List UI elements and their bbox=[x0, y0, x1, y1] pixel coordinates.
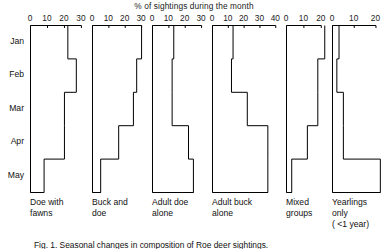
step-plot-svg bbox=[92, 25, 148, 194]
x-axis-ticklabels-yearlings-only: 01020 bbox=[332, 13, 382, 25]
step-outline bbox=[93, 26, 142, 193]
tick-label: 0 bbox=[284, 13, 289, 23]
tick-label: 40 bbox=[271, 13, 280, 23]
x-axis-ticklabels-buck-and-doe: 0102030 bbox=[92, 13, 146, 25]
step-plot-svg bbox=[286, 25, 328, 194]
step-outline bbox=[153, 26, 194, 193]
tick-label: 0 bbox=[210, 13, 215, 23]
tick-label: 20 bbox=[59, 13, 68, 23]
tick-label: 30 bbox=[76, 13, 85, 23]
x-axis-ticklabels-adult-doe-alone: 0102030 bbox=[152, 13, 206, 25]
step-outline bbox=[287, 26, 325, 193]
plot-adult-buck-alone bbox=[212, 25, 282, 194]
tick-label: 20 bbox=[371, 13, 380, 23]
tick-label: 10 bbox=[42, 13, 51, 23]
panel-label-yearlings-only: Yearlings only ( <1 year) bbox=[332, 197, 388, 231]
step-outline bbox=[31, 26, 77, 193]
x-axis-ticklabels-adult-buck-alone: 010203040 bbox=[212, 13, 280, 25]
tick-label: 0 bbox=[28, 13, 33, 23]
x-axis-ticklabels-mixed-groups: 01020 bbox=[286, 13, 326, 25]
step-plot-svg bbox=[212, 25, 282, 194]
step-plot-svg bbox=[152, 25, 208, 194]
tick-label: 0 bbox=[150, 13, 155, 23]
tick-label: 20 bbox=[316, 13, 325, 23]
tick-label: 0 bbox=[330, 13, 335, 23]
tick-label: 20 bbox=[120, 13, 129, 23]
step-outline bbox=[213, 26, 268, 193]
plot-yearlings-only bbox=[332, 25, 384, 194]
tick-label: 30 bbox=[196, 13, 205, 23]
step-plot-svg bbox=[30, 25, 88, 194]
tick-label: 30 bbox=[255, 13, 264, 23]
tick-label: 30 bbox=[136, 13, 145, 23]
tick-label: 10 bbox=[164, 13, 173, 23]
tick-label: 10 bbox=[349, 13, 358, 23]
plot-doe-with-fawns bbox=[30, 25, 88, 194]
tick-label: 0 bbox=[90, 13, 95, 23]
plot-adult-doe-alone bbox=[152, 25, 208, 194]
tick-label: 10 bbox=[223, 13, 232, 23]
tick-label: 10 bbox=[299, 13, 308, 23]
tick-label: 20 bbox=[239, 13, 248, 23]
step-plot-svg bbox=[332, 25, 384, 194]
figure-roe-deer-sightings: % of sightings during the month JanFebMa… bbox=[0, 0, 388, 249]
tick-label: 10 bbox=[104, 13, 113, 23]
step-outline bbox=[333, 26, 381, 193]
x-axis-ticklabels-doe-with-fawns: 0102030 bbox=[30, 13, 86, 25]
figure-caption: Fig. 1. Seasonal changes in composition … bbox=[34, 240, 384, 249]
plot-mixed-groups bbox=[286, 25, 328, 194]
plot-buck-and-doe bbox=[92, 25, 148, 194]
tick-label: 20 bbox=[180, 13, 189, 23]
figure-title: % of sightings during the month bbox=[0, 1, 388, 11]
